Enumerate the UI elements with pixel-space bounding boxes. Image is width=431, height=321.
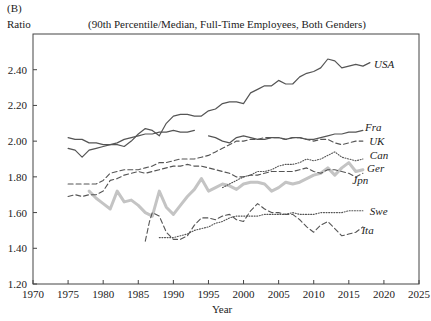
y-tick-label: 1.20 [8,278,28,290]
series-label-jpn: Jpn [352,174,368,186]
y-tick-label: 1.60 [8,207,28,219]
y-tick-label: 2.40 [8,64,28,76]
x-tick-label: 2015 [338,288,361,300]
series-line-swe [159,211,363,238]
x-tick-label: 1990 [162,288,185,300]
series-labels: JpnUSAFraUKCanGerSweIta [352,58,394,236]
series-line-fra [68,130,194,144]
series-label-fra: Fra [364,121,382,133]
series-label-usa: USA [374,58,394,70]
x-tick-label: 2005 [268,288,291,300]
x-tick-label: 2025 [408,288,431,300]
series-line-ger [68,164,363,196]
series-label-uk: UK [369,135,385,147]
line-chart: 1970197519801985199019952000200520102015… [0,0,431,321]
x-tick-label: 2020 [373,288,396,300]
series-label-can: Can [370,149,389,161]
series-line-usa [68,59,370,157]
x-tick-label: 1975 [57,288,80,300]
series-label-ger: Ger [367,162,385,174]
x-tick-label: 1985 [127,288,150,300]
series-line-jpn [89,163,363,217]
series-label-ita: Ita [360,224,374,236]
y-tick-label: 1.40 [8,242,28,254]
y-tick-label: 2.00 [8,135,28,147]
x-tick-label: 1980 [92,288,115,300]
x-tick-label: 1995 [197,288,220,300]
series-line-fra [209,130,363,143]
series-lines [68,59,370,241]
y-tick-label: 2.20 [8,99,28,111]
y-tick-label: 1.80 [8,171,28,183]
x-tick-label: 2000 [233,288,256,300]
x-tick-label: 2010 [303,288,326,300]
series-label-swe: Swe [370,205,388,217]
